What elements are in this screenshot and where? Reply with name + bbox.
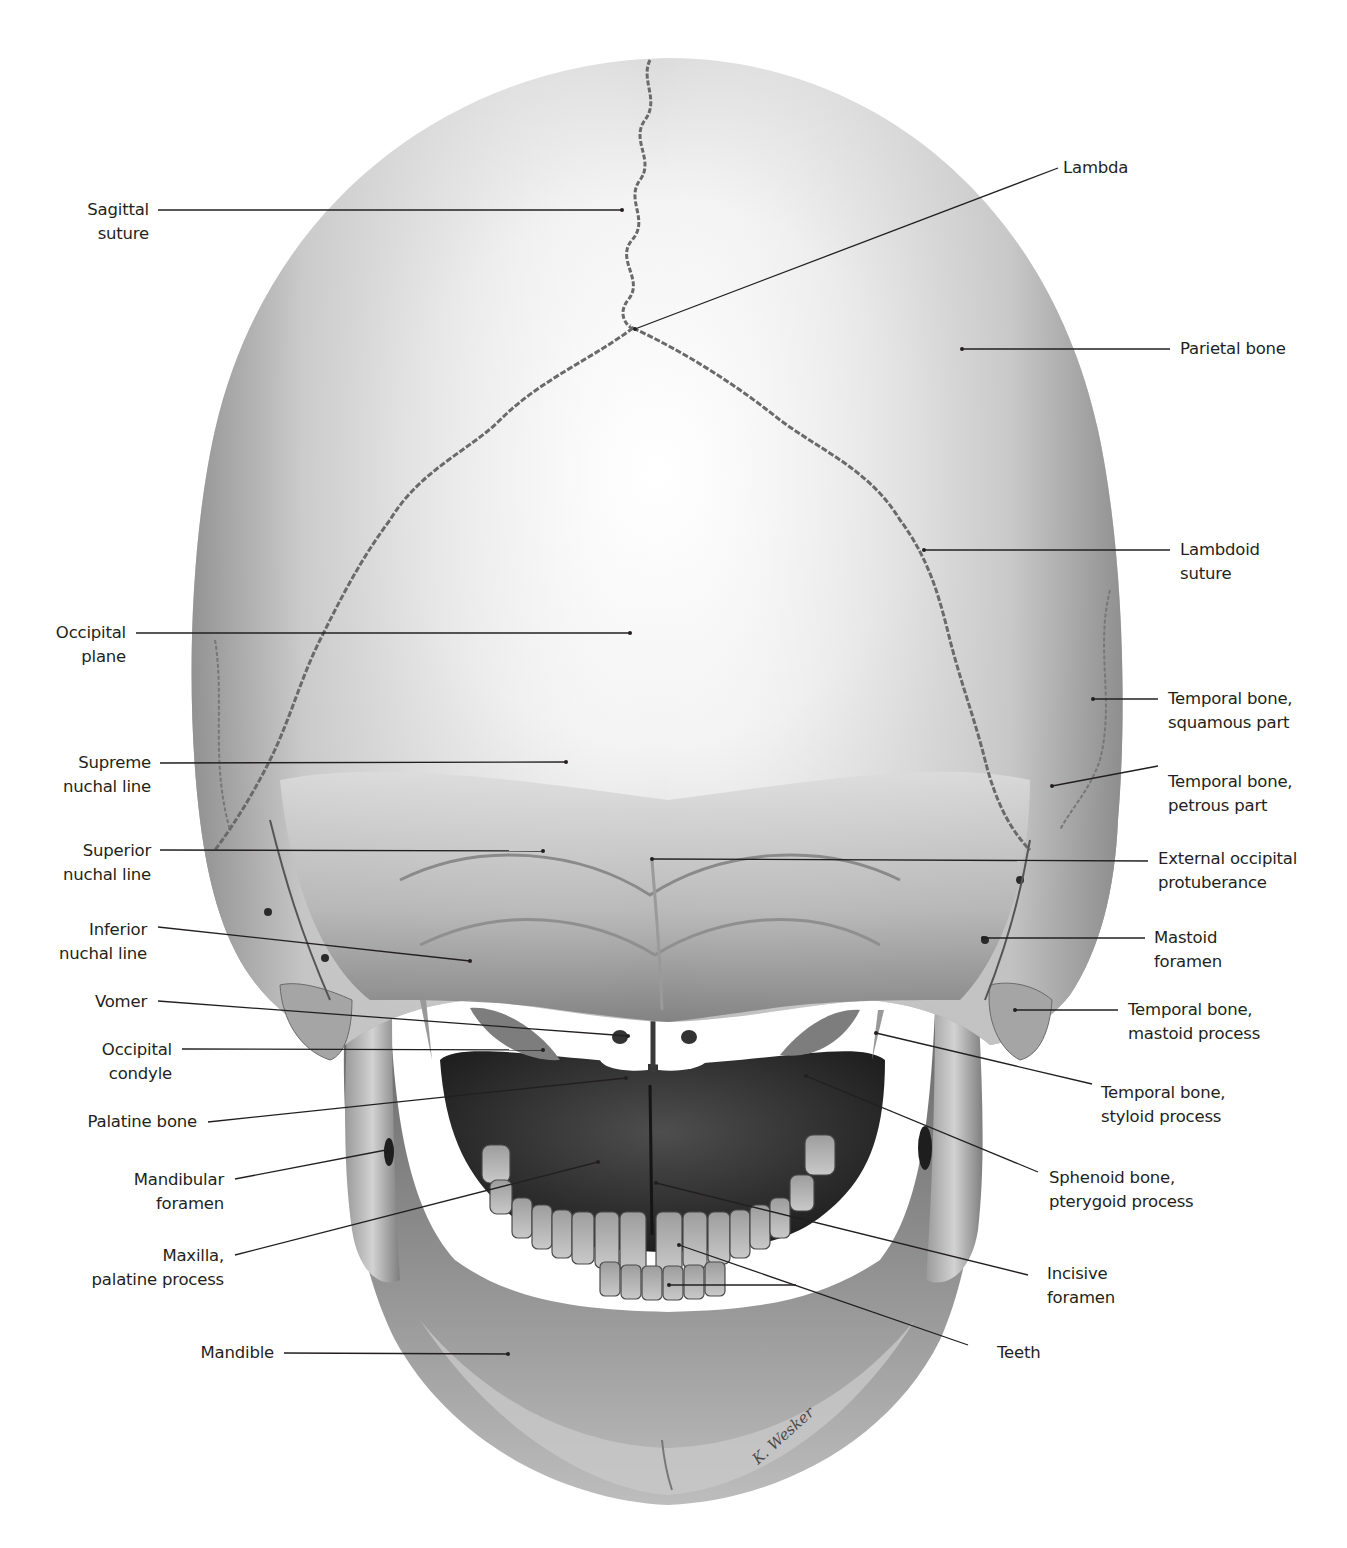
label-line: protuberance <box>1158 871 1297 895</box>
label-line: Sphenoid bone, <box>1049 1166 1194 1190</box>
label-line: Temporal bone, <box>1128 998 1260 1022</box>
label-line: Inferior <box>59 918 147 942</box>
label-line: styloid process <box>1101 1105 1225 1129</box>
label-line: foramen <box>1154 950 1222 974</box>
label-line: plane <box>56 645 126 669</box>
label-line: Mandibular <box>134 1168 224 1192</box>
label-mandibular-foramen: Mandibular foramen <box>134 1168 224 1216</box>
label-line: Mandible <box>201 1341 274 1365</box>
label-temporal-bone-petrous-part: Temporal bone, petrous part <box>1168 770 1292 818</box>
label-line: nuchal line <box>63 863 151 887</box>
label-sagittal-suture: Sagittal suture <box>87 198 149 246</box>
label-vomer: Vomer <box>95 990 147 1014</box>
label-line: mastoid process <box>1128 1022 1260 1046</box>
label-external-occipital-protuberance: External occipital protuberance <box>1158 847 1297 895</box>
label-line: Occipital <box>102 1038 172 1062</box>
label-maxilla-palatine-process: Maxilla, palatine process <box>92 1244 224 1292</box>
label-lambdoid-suture: Lambdoid suture <box>1180 538 1260 586</box>
label-parietal-bone: Parietal bone <box>1180 337 1286 361</box>
label-temporal-bone-styloid-process: Temporal bone, styloid process <box>1101 1081 1225 1129</box>
label-superior-nuchal-line: Superior nuchal line <box>63 839 151 887</box>
label-line: Temporal bone, <box>1168 687 1292 711</box>
label-line: nuchal line <box>59 942 147 966</box>
label-line: foramen <box>134 1192 224 1216</box>
label-mastoid-foramen: Mastoid foramen <box>1154 926 1222 974</box>
label-line: suture <box>87 222 149 246</box>
label-line: Parietal bone <box>1180 337 1286 361</box>
label-temporal-bone-mastoid-process: Temporal bone, mastoid process <box>1128 998 1260 1046</box>
label-line: Lambdoid <box>1180 538 1260 562</box>
label-line: palatine process <box>92 1268 224 1292</box>
label-inferior-nuchal-line: Inferior nuchal line <box>59 918 147 966</box>
label-supreme-nuchal-line: Supreme nuchal line <box>63 751 151 799</box>
label-line: squamous part <box>1168 711 1292 735</box>
label-line: External occipital <box>1158 847 1297 871</box>
label-line: nuchal line <box>63 775 151 799</box>
label-line: condyle <box>102 1062 172 1086</box>
label-line: Maxilla, <box>92 1244 224 1268</box>
label-line: Sagittal <box>87 198 149 222</box>
label-line: Vomer <box>95 990 147 1014</box>
label-line: Incisive <box>1047 1262 1115 1286</box>
label-incisive-foramen: Incisive foramen <box>1047 1262 1115 1310</box>
label-line: suture <box>1180 562 1260 586</box>
cranium-shape <box>192 58 1123 1060</box>
label-mandible: Mandible <box>201 1341 274 1365</box>
label-temporal-bone-squamous-part: Temporal bone, squamous part <box>1168 687 1292 735</box>
label-line: Occipital <box>56 621 126 645</box>
label-line: Temporal bone, <box>1168 770 1292 794</box>
label-line: Superior <box>63 839 151 863</box>
label-line: petrous part <box>1168 794 1292 818</box>
label-line: Teeth <box>997 1341 1041 1365</box>
label-teeth: Teeth <box>997 1341 1041 1365</box>
skull-illustration: K. Wesker <box>0 0 1347 1548</box>
label-line: Palatine bone <box>87 1110 197 1134</box>
label-line: Supreme <box>63 751 151 775</box>
label-line: Mastoid <box>1154 926 1222 950</box>
label-palatine-bone: Palatine bone <box>87 1110 197 1134</box>
label-line: Lambda <box>1063 156 1128 180</box>
label-line: foramen <box>1047 1286 1115 1310</box>
label-lambda: Lambda <box>1063 156 1128 180</box>
label-occipital-condyle: Occipital condyle <box>102 1038 172 1086</box>
label-occipital-plane: Occipital plane <box>56 621 126 669</box>
label-line: pterygoid process <box>1049 1190 1194 1214</box>
label-sphenoid-bone-pterygoid-process: Sphenoid bone, pterygoid process <box>1049 1166 1194 1214</box>
label-line: Temporal bone, <box>1101 1081 1225 1105</box>
